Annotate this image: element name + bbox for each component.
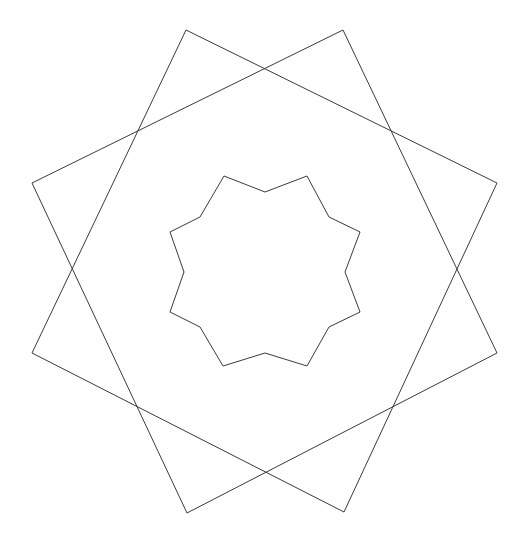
figure-svg — [0, 0, 529, 545]
drawing-canvas — [0, 0, 529, 545]
canvas-background — [0, 0, 529, 545]
